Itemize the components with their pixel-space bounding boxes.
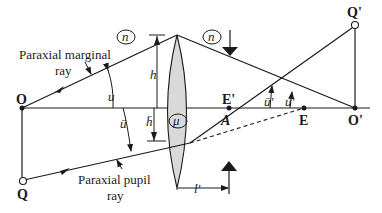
- pupil-ray-arrow-icon: [60, 168, 70, 175]
- label-n-right: n: [208, 29, 215, 44]
- label-Q: Q: [17, 187, 28, 202]
- label-A: A: [220, 113, 230, 128]
- virtual-pupil-ray: [190, 108, 304, 143]
- label-h-bar: h̄: [146, 114, 153, 129]
- marginal-ray-label-line2: ray: [55, 63, 72, 78]
- label-u-bar-prime: ū': [264, 94, 274, 109]
- label-u-bar: ū: [120, 116, 127, 131]
- pupil-ray-image-side: [190, 28, 352, 143]
- point-E: [302, 106, 307, 111]
- stop-up-arrow-icon: [221, 161, 237, 171]
- h-arrow-icon: [154, 36, 160, 45]
- marginal-ray-leader: [85, 62, 91, 74]
- point-Q: [20, 178, 27, 185]
- label-u: u: [108, 89, 115, 104]
- pupil-ray-leader: [117, 160, 122, 169]
- label-Q-prime: Q': [347, 5, 362, 20]
- label-l-prime: l': [194, 181, 201, 196]
- point-O-prime: [353, 106, 358, 111]
- optical-diagram: Paraxial marginal ray Paraxial pupil ray…: [0, 0, 382, 213]
- label-h: h: [150, 67, 157, 82]
- label-O: O: [16, 92, 27, 107]
- label-n-left: n: [122, 29, 129, 44]
- label-u-prime: u': [285, 94, 295, 109]
- marginal-ray-label-line1: Paraxial marginal: [19, 47, 111, 62]
- label-E-prime: E': [222, 92, 235, 107]
- pupil-ray-label-line1: Paraxial pupil: [78, 172, 151, 187]
- label-E: E: [299, 113, 308, 128]
- point-Q-prime: [352, 22, 359, 29]
- label-O-prime: O': [348, 113, 363, 128]
- label-mu: μ: [172, 113, 180, 128]
- lens: [168, 35, 187, 188]
- pupil-ray-label-line2: ray: [107, 188, 124, 203]
- h-bar-arrow-icon: [151, 132, 157, 141]
